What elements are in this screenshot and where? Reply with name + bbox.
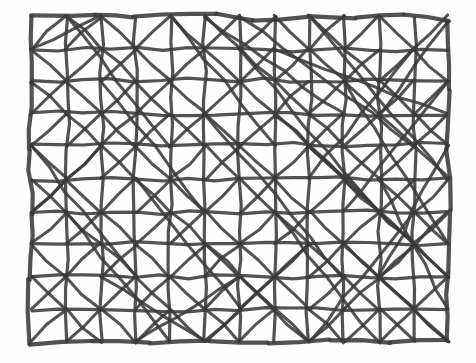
sketch-stroke	[206, 211, 239, 244]
sketch-stroke	[92, 341, 149, 343]
sketch-stroke	[310, 211, 343, 244]
sketch-stroke	[253, 17, 308, 21]
sketch-stroke	[31, 17, 32, 84]
sketch-stroke	[356, 15, 403, 18]
sketch-stroke	[310, 180, 344, 212]
sketch-stroke	[100, 16, 136, 49]
sketch-canvas	[0, 0, 476, 363]
mesh-diagram	[0, 0, 476, 363]
sketch-stroke	[31, 309, 67, 342]
sketch-stroke	[136, 245, 169, 278]
sketch-stroke	[30, 341, 93, 345]
sketch-stroke	[31, 244, 66, 277]
sketch-stroke	[66, 277, 102, 310]
sketch-stroke	[206, 115, 240, 146]
sketch-stroke	[205, 178, 239, 212]
sketch-stroke	[101, 309, 135, 343]
sketch-stroke	[102, 178, 135, 212]
sketch-stroke	[136, 49, 170, 81]
sketch-stroke	[448, 210, 450, 272]
sketch-stroke	[135, 146, 170, 179]
sketch-stroke	[65, 81, 102, 114]
sketch-stroke	[31, 15, 95, 16]
sketch-stroke	[274, 146, 309, 178]
sketch-stroke	[330, 340, 390, 343]
sketch-stroke	[308, 16, 355, 18]
sketch-stroke	[136, 17, 169, 48]
sketch-stroke	[239, 244, 274, 277]
sketch-stroke	[239, 309, 275, 341]
sketch-stroke	[380, 16, 414, 49]
sketch-stroke	[136, 81, 170, 114]
sketch-stroke	[276, 278, 310, 310]
sketch-stroke	[404, 15, 449, 21]
sketch-stroke	[29, 83, 32, 149]
sketch-stroke	[31, 50, 66, 80]
sketch-stroke	[28, 150, 32, 214]
sketch-stroke	[30, 215, 33, 281]
sketch-stroke	[414, 50, 447, 81]
sketch-stroke	[389, 340, 447, 342]
sketch-stroke	[31, 213, 67, 244]
sketch-stroke	[209, 341, 267, 343]
sketch-stroke	[447, 90, 450, 149]
sketch-stroke	[447, 22, 449, 90]
sketch-stroke	[275, 180, 309, 212]
sketch-stroke	[169, 276, 206, 310]
sketch-stroke	[169, 82, 206, 114]
sketch-stroke	[150, 341, 209, 344]
sketch-stroke	[95, 15, 132, 17]
sketch-stroke	[66, 180, 101, 213]
sketch-stroke	[31, 210, 447, 214]
sketch-stroke	[446, 273, 448, 341]
sketch-stroke	[268, 340, 329, 344]
sketch-stroke	[343, 212, 380, 244]
sketch-stroke	[30, 114, 66, 146]
sketch-stroke	[28, 279, 30, 344]
sketch-stroke	[240, 213, 274, 243]
